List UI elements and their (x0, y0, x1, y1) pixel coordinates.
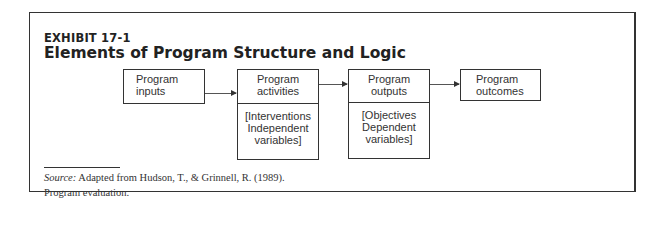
exhibit-title: Elements of Program Structure and Logic (44, 44, 406, 62)
activities-detail: [Interventions Independent variables] (238, 103, 318, 146)
source-citation: Source: Adapted from Hudson, T., & Grinn… (44, 170, 285, 200)
arrow-inputs-to-activities (205, 93, 236, 94)
source-prefix: Source: (44, 172, 76, 183)
arrow-activities-to-outputs (319, 84, 347, 85)
box-program-inputs: Program inputs (123, 69, 205, 104)
box-program-activities: Program activities [Interventions Indepe… (237, 69, 319, 160)
box-program-outcomes: Program outcomes (460, 69, 541, 101)
box-program-inputs-label: Program inputs (124, 70, 204, 97)
footnote-rule (44, 167, 120, 168)
box-program-outputs: Program outputs [Objectives Dependent va… (348, 69, 430, 159)
arrow-outputs-to-outcomes (430, 84, 459, 85)
exhibit-label: EXHIBIT 17-1 (44, 31, 131, 45)
outputs-detail: [Objectives Dependent variables] (349, 102, 429, 145)
